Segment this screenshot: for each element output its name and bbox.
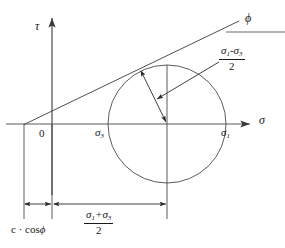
- radius-num-sigma3-sub: 3: [239, 50, 243, 58]
- radius-fraction-numerator: σ1-σ3: [219, 45, 245, 59]
- center-num-sigma3-sub: 3: [108, 214, 112, 222]
- sigma1-subscript: 1: [226, 132, 230, 140]
- phi-label: ϕ: [245, 12, 251, 24]
- radius-fraction-denominator: 2: [219, 60, 245, 73]
- radius-label-leader: [157, 62, 219, 99]
- origin-label: 0: [39, 128, 45, 139]
- radius-fraction-label: σ1-σ3 2: [219, 45, 245, 72]
- sigma3-label: σ3: [95, 127, 104, 140]
- tau-axis-label: τ: [35, 20, 39, 32]
- center-fraction-numerator: σ1+σ3: [84, 209, 113, 223]
- center-fraction-label: σ1+σ3 2: [84, 209, 113, 236]
- center-fraction-denominator: 2: [84, 224, 113, 237]
- sigma-axis-label: σ: [259, 114, 265, 126]
- sigma3-subscript: 3: [100, 132, 104, 140]
- diagram-canvas: [0, 0, 285, 248]
- cohesion-phi-symbol: ϕ: [40, 223, 46, 235]
- sigma1-label: σ1: [221, 127, 230, 140]
- radius-arrow: [141, 71, 166, 122]
- mohr-circle-diagram: τ σ ϕ 0 σ3 σ1 σ1-σ3 2 σ1+σ3 2 c · cosϕ: [0, 0, 285, 248]
- failure-envelope-line: [24, 21, 239, 125]
- cohesion-label: c · cosϕ: [11, 224, 45, 235]
- cohesion-term-text: c · cos: [11, 223, 40, 235]
